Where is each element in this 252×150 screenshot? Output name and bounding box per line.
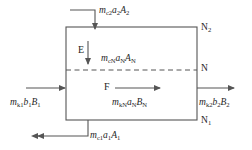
stream-bottom-outlet-sub2: 1 bbox=[108, 134, 111, 141]
stream-right-outlet-sub2: 2 bbox=[217, 101, 220, 108]
stream-label-right-outlet: mk2b2B2 bbox=[199, 98, 230, 108]
interior-lower-text: m bbox=[112, 97, 119, 107]
node-n2-sub: 2 bbox=[208, 26, 211, 33]
interior-label-upper: mcNaNAN bbox=[101, 54, 136, 64]
interior-lower-sub2: N bbox=[132, 101, 137, 108]
diagram-canvas: mc2a2A2 mk1b1B1 mk2b2B2 mc1a1A1 mcNaNAN … bbox=[0, 0, 252, 150]
stream-left-inlet-sub3: 1 bbox=[37, 101, 40, 108]
node-label-n1: N1 bbox=[201, 116, 211, 126]
stream-top-inlet-sub1: c2 bbox=[106, 9, 112, 16]
bottom-outlet-arrow bbox=[38, 120, 88, 136]
node-n1-text: N bbox=[201, 115, 208, 125]
stream-top-inlet-text: m bbox=[99, 5, 106, 15]
stream-left-inlet-text: m bbox=[10, 97, 17, 107]
zone-label-f: F bbox=[104, 82, 110, 92]
node-n-text: N bbox=[201, 63, 208, 73]
node-n1-sub: 1 bbox=[208, 119, 211, 126]
stream-label-top-inlet: mc2a2A2 bbox=[99, 6, 129, 16]
interior-upper-text: m bbox=[101, 53, 108, 63]
zone-label-e: E bbox=[78, 45, 84, 55]
stream-bottom-outlet-sub3: 1 bbox=[117, 134, 120, 141]
interior-upper-sub1: cN bbox=[108, 57, 116, 64]
interior-upper-sub3: N bbox=[131, 57, 136, 64]
stream-right-outlet-text: m bbox=[199, 97, 206, 107]
stream-label-bottom-outlet: mc1a1A1 bbox=[90, 131, 120, 141]
stream-bottom-outlet-text: m bbox=[90, 130, 97, 140]
stream-right-outlet-sub1: k2 bbox=[206, 101, 213, 108]
bottom-outlet-arrowhead-icon bbox=[31, 133, 38, 139]
interior-lower-sub1: kN bbox=[119, 101, 127, 108]
top-inlet-arrow bbox=[70, 10, 95, 29]
stream-label-left-inlet: mk1b1B1 bbox=[10, 98, 41, 108]
interior-lower-sub3: N bbox=[142, 101, 147, 108]
diagram-vector-layer bbox=[0, 0, 252, 150]
stream-bottom-outlet-sub1: c1 bbox=[97, 134, 103, 141]
interior-upper-sub2: N bbox=[120, 57, 125, 64]
stream-left-inlet-sub1: k1 bbox=[17, 101, 24, 108]
stream-right-outlet-sub3: 2 bbox=[226, 101, 229, 108]
stream-top-inlet-sub2: 2 bbox=[117, 9, 120, 16]
node-label-n2: N2 bbox=[201, 23, 211, 33]
node-n2-text: N bbox=[201, 22, 208, 32]
interior-lower-mid: a bbox=[127, 97, 132, 107]
interior-label-lower: mkNaNBN bbox=[112, 98, 147, 108]
node-label-n: N bbox=[201, 64, 208, 74]
stream-top-inlet-sub3: 2 bbox=[126, 9, 129, 16]
stream-left-inlet-sub2: 1 bbox=[28, 101, 31, 108]
